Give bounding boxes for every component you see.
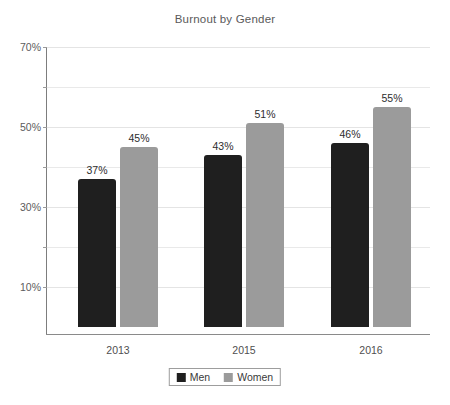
bar-group-2015: 43% 51%: [204, 47, 284, 327]
x-axis-label-2013: 2013: [106, 344, 129, 356]
bar-women-2015[interactable]: 51%: [246, 123, 284, 327]
bar-chart: Burnout by Gender 70% 50% 30% 10%: [0, 0, 450, 405]
tick-mark-70: [43, 47, 47, 48]
tick-mark-30: [43, 207, 47, 208]
bar-value-men-2013: 37%: [86, 164, 107, 176]
legend-label-men: Men: [190, 371, 210, 383]
legend-item-men[interactable]: Men: [177, 371, 210, 383]
chart-title: Burnout by Gender: [0, 13, 450, 25]
tick-mark-20: [43, 247, 47, 248]
bar-value-women-2016: 55%: [381, 92, 402, 104]
x-axis-label-2015: 2015: [232, 344, 255, 356]
legend-swatch-women-icon: [224, 373, 233, 382]
plot-area: 70% 50% 30% 10% 37% 45%: [47, 47, 430, 327]
bar-value-women-2013: 45%: [128, 132, 149, 144]
bar-value-men-2016: 46%: [339, 128, 360, 140]
bar-value-women-2015: 51%: [254, 108, 275, 120]
y-axis-label-30: 30%: [20, 201, 41, 213]
bar-men-2013[interactable]: 37%: [78, 179, 116, 327]
bar-group-2013: 37% 45%: [78, 47, 158, 327]
y-axis-label-50: 50%: [20, 121, 41, 133]
legend-swatch-men-icon: [177, 373, 186, 382]
tick-mark-60: [43, 87, 47, 88]
legend-label-women: Women: [237, 371, 273, 383]
tick-mark-10: [43, 287, 47, 288]
bar-men-2015[interactable]: 43%: [204, 155, 242, 327]
y-axis-label-10: 10%: [20, 281, 41, 293]
bar-women-2013[interactable]: 45%: [120, 147, 158, 327]
tick-mark-50: [43, 127, 47, 128]
bar-value-men-2015: 43%: [212, 140, 233, 152]
bar-group-2016: 46% 55%: [331, 47, 411, 327]
bar-men-2016[interactable]: 46%: [331, 143, 369, 327]
chart-legend: Men Women: [169, 368, 281, 386]
y-axis-label-70: 70%: [20, 41, 41, 53]
tick-mark-40: [43, 167, 47, 168]
x-axis-line: [46, 334, 430, 335]
x-axis-label-2016: 2016: [359, 344, 382, 356]
bar-women-2016[interactable]: 55%: [373, 107, 411, 327]
legend-item-women[interactable]: Women: [224, 371, 273, 383]
